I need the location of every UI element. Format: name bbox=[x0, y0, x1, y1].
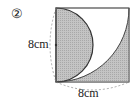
left-side-label: 8cm bbox=[28, 37, 49, 52]
geometry-figure bbox=[0, 0, 140, 105]
bottom-side-label: 8cm bbox=[78, 86, 99, 101]
